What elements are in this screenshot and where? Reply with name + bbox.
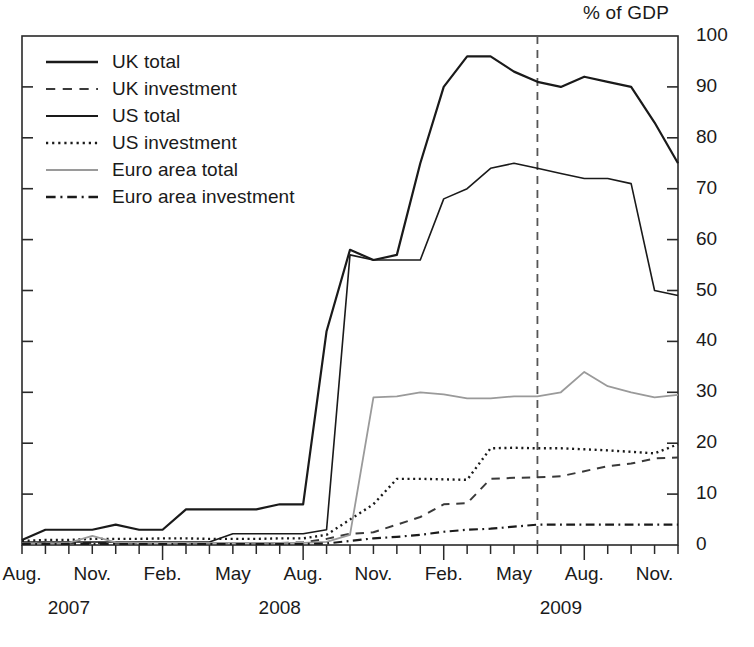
- x-tick-label: Nov.: [333, 563, 413, 585]
- legend-line-swatch: [44, 189, 100, 205]
- legend-item: UK investment: [44, 75, 295, 102]
- x-tick-label: May: [474, 563, 554, 585]
- legend-item-label: UK investment: [112, 78, 237, 100]
- y-tick-label: 0: [696, 533, 707, 555]
- y-axis-title: % of GDP: [583, 2, 669, 24]
- x-tick-label: Nov.: [52, 563, 132, 585]
- x-tick-label: Feb.: [404, 563, 484, 585]
- x-tick-label: May: [193, 563, 273, 585]
- series-line: [22, 163, 678, 542]
- legend-item: US investment: [44, 129, 295, 156]
- y-tick-label: 30: [696, 380, 717, 402]
- x-tick-label: Feb.: [123, 563, 203, 585]
- legend-line-swatch: [44, 162, 100, 178]
- legend-item-label: Euro area total: [112, 159, 238, 181]
- y-tick-label: 100: [696, 24, 728, 46]
- chart-figure: % of GDP UK totalUK investmentUS totalUS…: [0, 0, 754, 647]
- chart-legend: UK totalUK investmentUS totalUS investme…: [44, 48, 295, 210]
- x-year-label: 2008: [240, 597, 320, 619]
- y-tick-label: 60: [696, 228, 717, 250]
- series-line: [22, 372, 678, 544]
- legend-line-swatch: [44, 135, 100, 151]
- y-tick-label: 40: [696, 329, 717, 351]
- legend-line-swatch: [44, 54, 100, 70]
- x-year-label: 2009: [521, 597, 601, 619]
- legend-item: US total: [44, 102, 295, 129]
- y-tick-label: 20: [696, 431, 717, 453]
- legend-item: Euro area total: [44, 156, 295, 183]
- legend-line-swatch: [44, 81, 100, 97]
- legend-item-label: US investment: [112, 132, 237, 154]
- x-tick-label: Aug.: [544, 563, 624, 585]
- y-tick-label: 90: [696, 75, 717, 97]
- y-tick-label: 70: [696, 177, 717, 199]
- legend-item-label: Euro area investment: [112, 186, 295, 208]
- y-tick-label: 50: [696, 279, 717, 301]
- x-axis-ticks: [22, 545, 678, 560]
- x-tick-label: Nov.: [615, 563, 695, 585]
- y-tick-label: 10: [696, 482, 717, 504]
- legend-item-label: US total: [112, 105, 180, 127]
- legend-line-swatch: [44, 108, 100, 124]
- legend-item: UK total: [44, 48, 295, 75]
- y-tick-label: 80: [696, 126, 717, 148]
- legend-item-label: UK total: [112, 51, 180, 73]
- legend-item: Euro area investment: [44, 183, 295, 210]
- x-year-label: 2007: [29, 597, 109, 619]
- x-tick-label: Aug.: [263, 563, 343, 585]
